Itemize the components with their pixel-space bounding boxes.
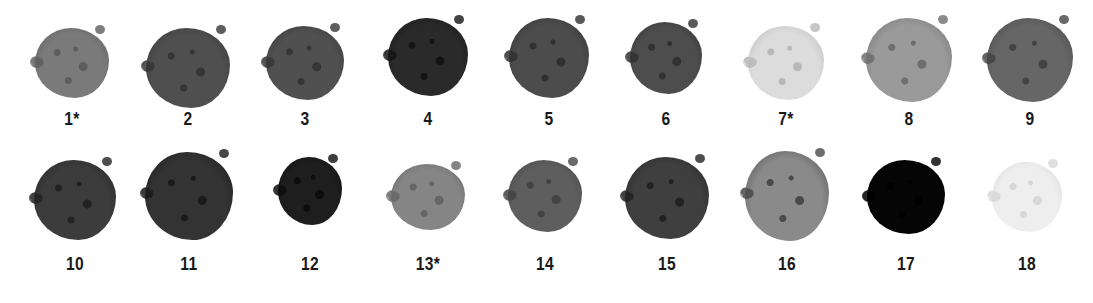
sample-number-label: 14 (496, 253, 594, 275)
sample-number-label: 17 (857, 253, 955, 275)
powder-pile-image (867, 160, 945, 234)
powder-pile-image (391, 164, 465, 230)
pigment-sample: 18 (967, 0, 1087, 303)
sample-number-label: 15 (618, 253, 716, 275)
pigment-sample: 13* (368, 0, 488, 303)
pigment-sample: 16 (727, 0, 847, 303)
pigment-sample: 17 (846, 0, 966, 303)
sample-number-label: 11 (140, 253, 238, 275)
powder-pile-image (508, 160, 582, 232)
powder-pile-image (145, 152, 233, 240)
sample-number-label: 18 (978, 253, 1076, 275)
powder-pile-image (625, 157, 709, 239)
powder-pile-image (992, 162, 1062, 232)
sample-number-label: 13* (379, 253, 477, 275)
pigment-sample: 14 (485, 0, 605, 303)
pigment-sample: 11 (129, 0, 249, 303)
powder-pile-image (34, 160, 116, 240)
sample-number-label: 12 (261, 253, 359, 275)
pigment-sample: 12 (250, 0, 370, 303)
sample-number-label: 10 (26, 253, 124, 275)
powder-pile-image (745, 151, 829, 241)
sample-number-label: 16 (738, 253, 836, 275)
pigment-sample: 15 (607, 0, 727, 303)
powder-pile-image (278, 157, 342, 225)
pigment-sample: 10 (15, 0, 135, 303)
